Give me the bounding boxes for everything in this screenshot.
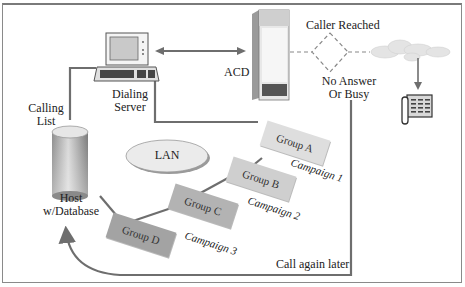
host-label: Host w/Database — [38, 192, 104, 218]
cloud-to-phone-arrow — [414, 58, 422, 90]
dialing-server-label: Dialing Server — [104, 88, 156, 114]
telephone-icon — [402, 95, 432, 124]
dialing-label-line2: Server — [104, 101, 156, 114]
call-again-later-label: Call again later — [276, 258, 349, 271]
server-acd-link — [155, 47, 246, 55]
lan-label: LAN — [150, 149, 184, 162]
server-cabinet-icon — [252, 10, 289, 100]
computer-icon — [94, 33, 159, 81]
database-icon — [52, 126, 88, 201]
calling-list-label: Calling List — [24, 102, 68, 128]
cloud-icon — [371, 40, 450, 61]
caller-reached-label: Caller Reached — [306, 19, 380, 32]
acd-label: ACD — [224, 66, 249, 79]
no-answer-label: No Answer Or Busy — [312, 75, 386, 101]
decision-diamond — [290, 33, 370, 72]
calling-list-line2: List — [24, 115, 68, 128]
host-line2: w/Database — [38, 205, 104, 218]
no-answer-line2: Or Busy — [312, 88, 386, 101]
